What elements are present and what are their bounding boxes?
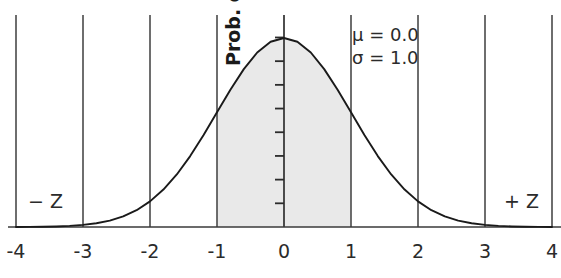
x-tick-label-2: 2 [398, 240, 438, 262]
x-tick-label-3: 3 [465, 240, 505, 262]
plot-area [0, 0, 561, 278]
minus-z-label: − Z [28, 190, 63, 212]
sigma-parameter: σ = 1.0 [352, 46, 419, 69]
x-tick-label--3: -3 [63, 240, 103, 262]
x-tick-label-0: 0 [264, 240, 304, 262]
plus-z-label: + Z [504, 190, 539, 212]
distribution-parameters: μ = 0.0 σ = 1.0 [352, 23, 419, 69]
x-tick-label--1: -1 [197, 240, 237, 262]
mu-parameter: μ = 0.0 [352, 23, 419, 46]
x-tick-label-1: 1 [331, 240, 371, 262]
x-tick-label--4: -4 [0, 240, 36, 262]
y-axis-label: Prob. density [222, 0, 244, 66]
x-tick-label--2: -2 [130, 240, 170, 262]
x-tick-label-4: 4 [532, 240, 561, 262]
normal-distribution-figure: Prob. density μ = 0.0 σ = 1.0 − Z + Z -4… [0, 0, 561, 278]
